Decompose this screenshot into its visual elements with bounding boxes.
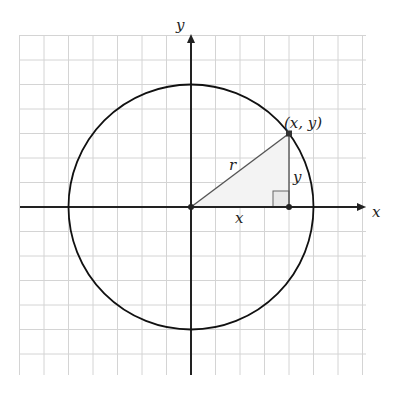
origin-dot: [188, 204, 194, 210]
opposite-label: y: [292, 168, 302, 186]
hypotenuse-label: r: [229, 156, 237, 174]
adjacent-label: x: [235, 209, 244, 227]
point-label: (x, y): [284, 114, 322, 132]
diagram-canvas: x y (x, y) r y x: [0, 0, 401, 393]
right-angle-marker: [273, 191, 289, 207]
y-axis-label: y: [175, 16, 185, 34]
foot-dot: [286, 204, 292, 210]
x-axis-label: x: [372, 203, 381, 221]
x-axis-arrow-icon: [357, 203, 366, 211]
